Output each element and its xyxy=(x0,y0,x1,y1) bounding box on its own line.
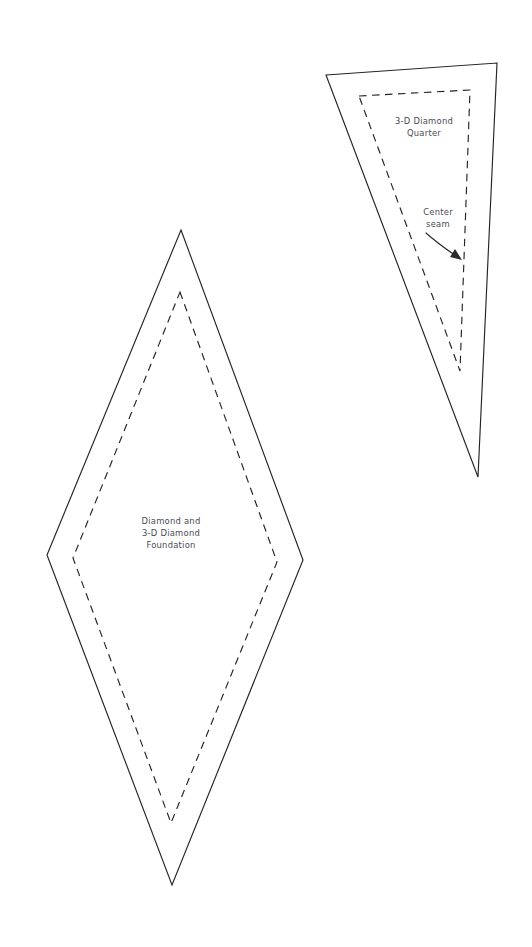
pattern-canvas: Diamond and 3-D Diamond Foundation 3-D D… xyxy=(0,0,532,947)
diamond-foundation-seam-line xyxy=(73,292,277,823)
piece-diamond-quarter: 3-D Diamond Quarter xyxy=(326,63,497,477)
center-seam-arrowhead-icon xyxy=(450,249,462,260)
diamond-quarter-label-line-1: 3-D Diamond xyxy=(395,116,453,126)
diamond-quarter-label: 3-D Diamond Quarter xyxy=(395,116,453,138)
piece-diamond-foundation: Diamond and 3-D Diamond Foundation xyxy=(47,230,303,885)
diamond-quarter-label-line-2: Quarter xyxy=(407,128,441,138)
diamond-foundation-label: Diamond and 3-D Diamond Foundation xyxy=(142,516,201,550)
diamond-foundation-cut-line xyxy=(47,230,303,885)
diamond-foundation-label-line-3: Foundation xyxy=(146,540,195,550)
center-seam-label-line-2: seam xyxy=(426,219,450,229)
center-seam-label-line-1: Center xyxy=(423,207,453,217)
diamond-foundation-label-line-2: 3-D Diamond xyxy=(142,528,200,538)
pattern-sheet: Diamond and 3-D Diamond Foundation 3-D D… xyxy=(0,0,532,947)
annotation-center-seam: Center seam xyxy=(423,207,462,261)
diamond-foundation-label-line-1: Diamond and xyxy=(142,516,201,526)
